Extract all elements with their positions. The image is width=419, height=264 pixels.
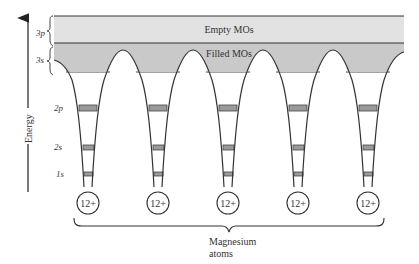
label-1s: 1s: [56, 169, 65, 179]
brace-3p: [47, 16, 53, 46]
label-2s: 2s: [54, 142, 63, 152]
energy-axis-label: Energy: [23, 114, 34, 143]
label-3s: 3s: [35, 55, 45, 65]
nucleus-charge: 12+: [150, 198, 166, 209]
label-2p: 2p: [54, 103, 64, 113]
band-diagram: Empty MOs Filled MOs Energy 3p 3s 2p 2s …: [0, 0, 419, 264]
label-3p: 3p: [35, 28, 46, 38]
nucleus-charge: 12+: [80, 198, 96, 209]
filled-mo-label: Filled MOs: [206, 48, 252, 59]
nucleus-charge: 12+: [360, 198, 376, 209]
nucleus-charge: 12+: [220, 198, 236, 209]
brace-3s: [47, 47, 53, 75]
atoms-label-line1: Magnesium: [209, 236, 256, 247]
atoms-label-line2: atoms: [209, 248, 233, 259]
nucleus-charge: 12+: [290, 198, 306, 209]
empty-mo-label: Empty MOs: [204, 24, 253, 35]
